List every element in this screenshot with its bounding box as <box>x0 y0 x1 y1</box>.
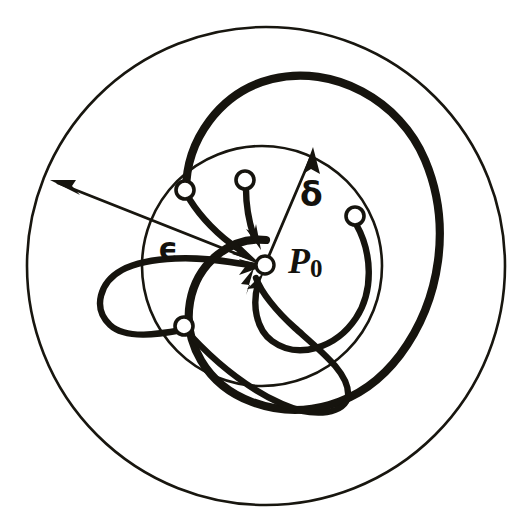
delta-label: δ <box>300 178 323 211</box>
epsilon-radius-arrowhead-icon <box>50 180 80 195</box>
trajectory-upper-left-link <box>190 200 240 250</box>
diagram-canvas <box>0 0 526 531</box>
start-point-top <box>236 171 254 189</box>
equilibrium-letter: P <box>288 241 310 281</box>
epsilon-label: ϵ <box>158 234 178 265</box>
stability-diagram-figure: ϵ δ P0 <box>0 0 526 531</box>
start-point-right <box>346 207 364 225</box>
start-point-lower-left <box>175 317 193 335</box>
start-point-upper-left <box>176 181 194 199</box>
equilibrium-point-label: P0 <box>288 243 323 279</box>
equilibrium-subscript: 0 <box>310 255 323 282</box>
equilibrium-point-marker <box>256 256 274 274</box>
